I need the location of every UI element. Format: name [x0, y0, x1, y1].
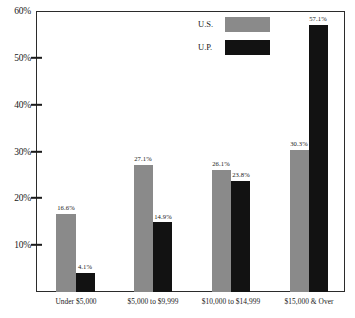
bar-up-10000-14999 — [231, 181, 250, 293]
bar-us-15000-over — [290, 150, 309, 292]
bar-value-label: 27.1% — [134, 155, 152, 162]
bar-value-label: 26.1% — [212, 160, 230, 167]
legend-label-us: U.S. — [198, 19, 225, 29]
bar-us-10000-14999 — [212, 170, 231, 292]
bar-up-15000-over — [309, 25, 328, 293]
bar-value-label: 30.3% — [290, 140, 308, 147]
bar-value-label: 4.1% — [78, 263, 92, 270]
legend-item-us: U.S. — [198, 14, 286, 34]
chart-legend: U.S. U.P. — [198, 14, 286, 60]
x-tick-label: Under $5,000 — [55, 297, 96, 306]
x-tick-label: $5,000 to $9,999 — [128, 297, 179, 306]
bar-us-under-5000 — [56, 214, 76, 292]
legend-item-up: U.P. — [198, 37, 286, 57]
legend-swatch-up — [225, 40, 270, 55]
bar-value-label: 57.1% — [309, 15, 327, 22]
x-tick-label: $10,000 to $14,999 — [202, 297, 260, 306]
x-tick-label: $15,000 & Over — [285, 297, 334, 306]
bar-us-5000-9999 — [134, 165, 153, 292]
bars-layer: 16.6% 4.1% 27.1% 14.9% 26.1% 23.8% 30.3%… — [0, 0, 355, 318]
bar-value-label: 23.8% — [232, 171, 250, 178]
bar-value-label: 14.9% — [154, 213, 172, 220]
bar-chart: 60% 50% 40% 30% 20% 10% 16.6% 4.1% 27.1%… — [0, 0, 355, 318]
legend-label-up: U.P. — [198, 42, 225, 52]
legend-swatch-us — [225, 17, 270, 32]
bar-up-5000-9999 — [153, 222, 172, 292]
bar-value-label: 16.6% — [57, 204, 75, 211]
bar-up-under-5000 — [76, 273, 95, 292]
